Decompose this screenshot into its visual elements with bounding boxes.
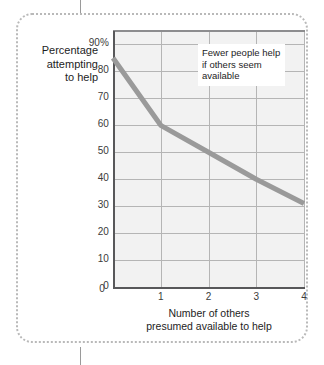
y-axis-tick-label: 50: [3, 145, 109, 156]
y-axis-tick-label: 20: [3, 226, 109, 237]
x-axis-tick-label: 3: [246, 291, 266, 302]
y-axis-title-line-1: Percentage: [14, 44, 98, 58]
y-axis-title: Percentage attempting to help: [14, 44, 98, 85]
y-axis-tick-label: 70: [3, 91, 109, 102]
y-axis-title-line-2: attempting: [14, 58, 98, 72]
y-axis-tick-label: 40: [3, 172, 109, 183]
annotation-line-2: if others seem: [202, 59, 280, 71]
y-axis-tick-label: 30: [3, 199, 109, 210]
x-axis-title: Number of others presumed available to h…: [113, 307, 305, 332]
x-axis-title-line-2: presumed available to help: [113, 320, 305, 333]
y-axis-tick-label: 10: [3, 253, 109, 264]
x-axis-tick-label: 2: [199, 291, 219, 302]
annotation-line-3: available: [202, 70, 280, 82]
line-chart: 0102030405060708090% 01234 Percentage at…: [0, 0, 324, 365]
y-axis-tick-label: 60: [3, 118, 109, 129]
x-axis-line: [113, 287, 305, 289]
x-axis-tick-label: 4: [294, 291, 314, 302]
y-axis-title-line-3: to help: [14, 71, 98, 85]
x-axis-tick-label: 1: [151, 291, 171, 302]
annotation-line-1: Fewer people help: [202, 47, 280, 59]
gridline-vertical: [304, 31, 305, 287]
x-axis-title-line-1: Number of others: [113, 307, 305, 320]
x-axis-tick-label: 0: [92, 283, 112, 294]
chart-annotation-callout: Fewer people help if others seem availab…: [198, 44, 285, 86]
